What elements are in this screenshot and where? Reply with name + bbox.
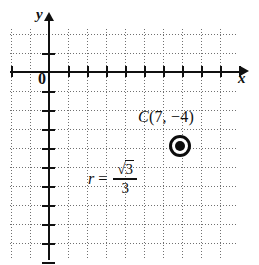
x-axis-tick (125, 66, 127, 77)
y-axis-tick (42, 186, 55, 188)
y-axis-tick (42, 224, 55, 226)
center-label-y-value: −4 (171, 108, 188, 125)
center-label-comma: , (163, 108, 171, 125)
y-axis-tick (42, 243, 55, 245)
y-axis-tick (42, 129, 55, 131)
grid-line-horizontal (10, 34, 236, 35)
x-axis-tick (144, 66, 146, 77)
center-label-letter: C (138, 108, 149, 125)
center-label-close-paren: ) (188, 108, 194, 125)
x-axis-tick (106, 66, 108, 77)
y-axis-tick (42, 91, 55, 93)
radicand-value: 3 (125, 160, 135, 177)
y-axis-tick (42, 53, 55, 55)
y-axis-tick (42, 262, 55, 264)
origin-label: 0 (38, 70, 46, 88)
center-label-x-value: 7 (154, 108, 162, 125)
radius-label: r = √3 3 (88, 162, 137, 196)
y-axis-tick (42, 148, 55, 150)
square-root-icon: √3 (116, 162, 134, 177)
y-axis-tick (42, 167, 55, 169)
center-point-dot-icon (175, 141, 185, 151)
x-axis-label: x (238, 70, 246, 87)
coordinate-plane-figure: y x 0 C(7, −4) r = √3 3 (0, 0, 259, 265)
radius-fraction: √3 3 (113, 162, 137, 196)
x-axis-tick (87, 66, 89, 77)
x-axis-tick (163, 66, 165, 77)
y-axis-arrow-icon (44, 12, 54, 21)
radius-denominator: 3 (118, 180, 132, 196)
radius-variable: r (88, 170, 94, 188)
x-axis-tick (201, 66, 203, 77)
y-axis-label: y (36, 6, 43, 23)
x-axis-tick (11, 66, 13, 77)
center-point-label: C(7, −4) (138, 108, 194, 126)
x-axis-tick (68, 66, 70, 77)
y-axis-tick (42, 110, 55, 112)
y-axis-tick (42, 205, 55, 207)
radius-equals-sign: = (98, 170, 107, 188)
radius-numerator: √3 (113, 162, 137, 178)
x-axis-tick (182, 66, 184, 77)
x-axis-tick (220, 66, 222, 77)
